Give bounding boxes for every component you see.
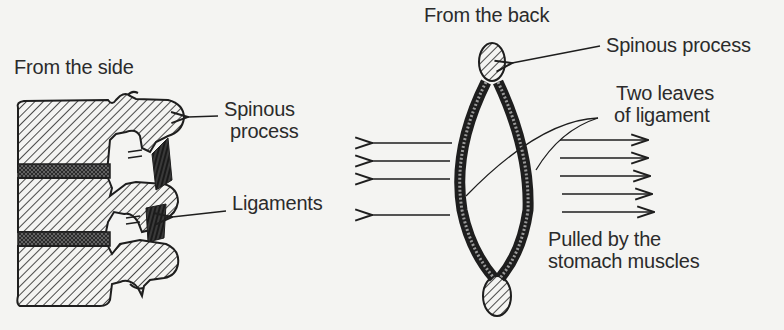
label-two-leaves-line1: Two leaves: [616, 82, 714, 104]
label-pulled-line1: Pulled by the: [548, 228, 661, 250]
leader-two-leaves-right: [536, 118, 598, 170]
spinous-process-bottom: [483, 276, 511, 316]
ligament-leaf-right: [498, 82, 528, 278]
vertebra-bottom: [17, 240, 178, 306]
label-ligaments-side: Ligaments: [232, 192, 322, 214]
heading-from-the-side: From the side: [14, 56, 134, 78]
disc-top: [18, 164, 110, 178]
ligament-leaf-left: [460, 82, 494, 278]
disc-bottom: [18, 232, 110, 246]
label-spinous-process-side-line1: Spinous: [224, 98, 295, 120]
arrow-ligaments-side: [172, 211, 226, 217]
label-spinous-process-side-line2: process: [230, 120, 299, 142]
heading-from-the-back: From the back: [424, 4, 549, 26]
right-pull-arrows: [560, 140, 654, 212]
label-spinous-process-back: Spinous process: [606, 34, 751, 56]
ligament-band-lower: [146, 204, 166, 242]
spine-diagram: From the side Spinous process Ligaments …: [0, 0, 784, 330]
label-pulled-line2: stomach muscles: [548, 250, 700, 272]
back-view: [460, 43, 528, 316]
left-pull-arrows: [372, 143, 452, 215]
arrow-spinous-process-side: [188, 116, 218, 117]
ligament-band-upper: [152, 138, 172, 190]
side-view-vertebrae: [17, 92, 184, 306]
label-two-leaves-line2: of ligament: [614, 104, 710, 126]
arrow-spinous-process-back: [512, 46, 600, 63]
spinous-process-top: [479, 43, 505, 81]
